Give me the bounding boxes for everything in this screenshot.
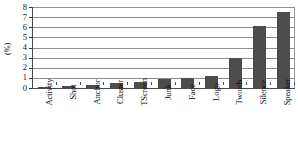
x-tick-mark [32, 82, 33, 85]
x-label-slot: Anchor [85, 92, 99, 154]
bars-layer [33, 7, 295, 88]
x-tick-mark [103, 82, 104, 85]
x-tick-mark [270, 82, 271, 85]
x-tick-label: Logo [211, 83, 221, 101]
x-tick-label: Activity [44, 78, 54, 105]
x-label-slot: Cluster [108, 92, 122, 154]
x-tick-mark [175, 82, 176, 85]
x-label-slot: Speaker [275, 92, 289, 154]
y-tick-label: 7 [23, 13, 27, 22]
x-tick-mark [223, 82, 224, 85]
plot-area [32, 7, 295, 89]
x-tick-label: Anchor [92, 80, 102, 105]
x-tick-label: Face [187, 84, 197, 100]
y-tick-label: 4 [23, 43, 27, 52]
x-tick-label: TScreen [139, 78, 149, 106]
x-tick-label: Twords [234, 80, 244, 105]
x-label-slot: Twords [227, 92, 241, 154]
y-tick-label: 5 [23, 33, 27, 42]
bar [253, 26, 266, 88]
x-label-slot: Shot [61, 92, 75, 154]
x-tick-mark [151, 82, 152, 85]
y-tick-label: 1 [23, 73, 27, 82]
x-label-slot: Logo [204, 92, 218, 154]
x-tick-mark [80, 82, 81, 85]
bar-chart: (%) 012345678 ActivityShotAnchorClusterT… [0, 0, 298, 156]
x-label-slot: Junk [156, 92, 170, 154]
x-tick-mark [56, 82, 57, 85]
x-label-slot: Silence [251, 92, 265, 154]
bar [277, 12, 290, 88]
x-axis-category-labels: ActivityShotAnchorClusterTScreenJunkFace… [32, 92, 294, 156]
x-tick-label: Shot [68, 84, 78, 99]
y-tick-label: 3 [23, 53, 27, 62]
x-tick-label: Junk [163, 84, 173, 100]
x-tick-label: Silence [258, 80, 268, 104]
y-tick-label: 8 [23, 3, 27, 12]
x-tick-mark [199, 82, 200, 85]
x-tick-mark [294, 82, 295, 85]
x-tick-label: Speaker [282, 79, 292, 106]
x-tick-mark [127, 82, 128, 85]
x-tick-mark [246, 82, 247, 85]
y-tick-label: 0 [23, 84, 27, 93]
x-label-slot: Activity [37, 92, 51, 154]
y-tick-label: 6 [23, 23, 27, 32]
x-label-slot: Face [180, 92, 194, 154]
y-axis-tick-labels: 012345678 [13, 0, 29, 156]
x-tick-label: Cluster [115, 80, 125, 104]
x-label-slot: TScreen [132, 92, 146, 154]
y-tick-label: 2 [23, 63, 27, 72]
